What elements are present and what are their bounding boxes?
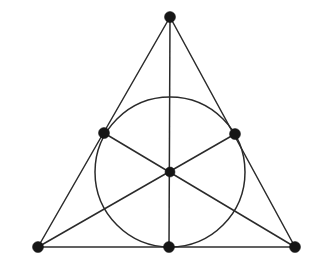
point-right-side-midpoint — [230, 129, 241, 140]
figure-canvas — [0, 0, 313, 263]
point-apex-vertex — [165, 12, 176, 23]
geometry-figure — [0, 0, 313, 263]
point-centroid — [165, 167, 175, 177]
point-base-midpoint — [164, 242, 175, 253]
point-bottom-right-vertex — [290, 242, 301, 253]
median-from-apex — [169, 17, 170, 247]
point-bottom-left-vertex — [33, 242, 44, 253]
point-left-side-midpoint — [99, 128, 110, 139]
